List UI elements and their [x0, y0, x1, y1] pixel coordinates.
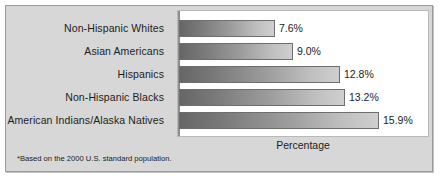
- chart-figure: Non-Hispanic Whites 7.6% Asian Americans…: [0, 0, 441, 182]
- bar-asian-americans[interactable]: [179, 43, 293, 60]
- bar-non-hispanic-blacks[interactable]: [179, 89, 345, 106]
- bar-value-label: 12.8%: [344, 66, 374, 83]
- chart-panel: Non-Hispanic Whites 7.6% Asian Americans…: [5, 5, 433, 172]
- category-label: Asian Americans: [84, 43, 164, 60]
- bar-non-hispanic-whites[interactable]: [179, 20, 275, 37]
- chart-footnote: *Based on the 2000 U.S. standard populat…: [17, 154, 172, 163]
- bar-american-indians-alaska-natives[interactable]: [179, 112, 379, 129]
- category-label: Non-Hispanic Blacks: [65, 89, 164, 106]
- category-label: American Indians/Alaska Natives: [7, 112, 164, 129]
- bar-value-label: 7.6%: [279, 20, 303, 37]
- bar-value-label: 9.0%: [297, 43, 321, 60]
- category-label: Non-Hispanic Whites: [64, 20, 164, 37]
- bar-row: Hispanics 12.8%: [6, 66, 432, 83]
- bar-row: Non-Hispanic Whites 7.6%: [6, 20, 432, 37]
- bar-hispanics[interactable]: [179, 66, 340, 83]
- bar-value-label: 15.9%: [383, 112, 413, 129]
- bar-row: Asian Americans 9.0%: [6, 43, 432, 60]
- x-axis-title: Percentage: [177, 139, 429, 151]
- category-label: Hispanics: [118, 66, 164, 83]
- bar-row: American Indians/Alaska Natives 15.9%: [6, 112, 432, 129]
- bar-value-label: 13.2%: [349, 89, 379, 106]
- bar-row: Non-Hispanic Blacks 13.2%: [6, 89, 432, 106]
